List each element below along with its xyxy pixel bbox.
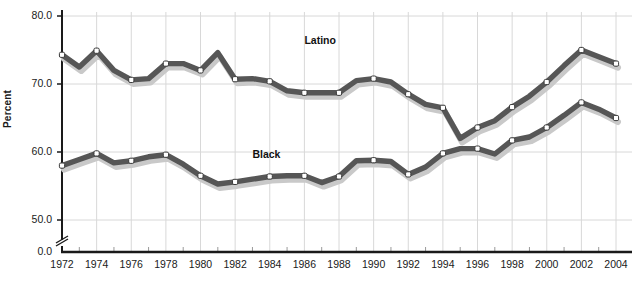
data-point-marker — [94, 48, 99, 53]
x-axis-tick-label: 1976 — [120, 258, 143, 270]
data-point-marker — [129, 77, 134, 82]
data-point-marker — [59, 52, 64, 57]
x-axis-tick-label: 2002 — [570, 258, 593, 270]
data-point-marker — [475, 146, 480, 151]
data-point-marker — [544, 125, 549, 130]
data-point-marker — [198, 173, 203, 178]
series-label-black: Black — [252, 148, 280, 160]
x-axis-tick-label: 1988 — [327, 258, 350, 270]
x-axis-tick-label: 1982 — [223, 258, 246, 270]
data-point-marker — [440, 151, 445, 156]
data-point-marker — [336, 174, 341, 179]
data-point-marker — [440, 105, 445, 110]
x-axis-tick-label: 1972 — [50, 258, 73, 270]
data-point-marker — [579, 47, 584, 52]
data-point-marker — [59, 163, 64, 168]
x-axis-tick-label: 1994 — [431, 258, 454, 270]
x-axis-tick-label: 2004 — [604, 258, 627, 270]
x-axis-tick-label: 1978 — [154, 258, 177, 270]
x-axis-tick-label: 1974 — [85, 258, 108, 270]
data-point-marker — [302, 173, 307, 178]
x-axis-tick-label: 1998 — [500, 258, 523, 270]
data-point-marker — [510, 138, 515, 143]
data-point-marker — [613, 115, 618, 120]
x-axis-tick-label: 1990 — [362, 258, 385, 270]
data-point-marker — [371, 158, 376, 163]
data-point-marker — [336, 90, 341, 95]
chart-container: Percent 80.070.060.050.00.0 197219741976… — [0, 0, 635, 295]
x-axis-tick-label: 2000 — [535, 258, 558, 270]
data-point-marker — [406, 172, 411, 177]
x-axis-tick-label: 1984 — [258, 258, 281, 270]
data-point-marker — [544, 79, 549, 84]
data-point-marker — [267, 174, 272, 179]
data-point-marker — [613, 61, 618, 66]
data-point-marker — [475, 125, 480, 130]
data-point-marker — [163, 152, 168, 157]
data-point-marker — [94, 151, 99, 156]
data-point-marker — [579, 100, 584, 105]
series-label-latino: Latino — [304, 34, 336, 46]
data-point-marker — [510, 105, 515, 110]
x-axis-tick-label: 1992 — [397, 258, 420, 270]
data-point-marker — [233, 77, 238, 82]
data-point-marker — [406, 92, 411, 97]
data-point-marker — [198, 68, 203, 73]
data-point-marker — [233, 179, 238, 184]
data-point-marker — [302, 90, 307, 95]
data-point-marker — [371, 76, 376, 81]
x-axis-tick-label: 1986 — [293, 258, 316, 270]
data-point-marker — [129, 158, 134, 163]
series-shadow-latino — [64, 54, 618, 142]
x-axis-tick-label: 1996 — [466, 258, 489, 270]
data-point-marker — [267, 79, 272, 84]
data-point-marker — [163, 61, 168, 66]
x-axis-tick-label: 1980 — [189, 258, 212, 270]
